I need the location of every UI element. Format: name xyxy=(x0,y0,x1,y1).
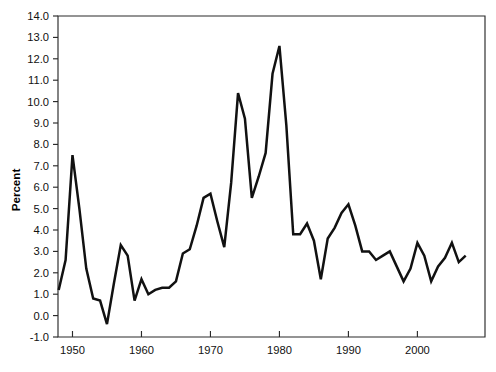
series-line-percent xyxy=(59,46,466,324)
y-tick-label: 1.0 xyxy=(33,288,49,300)
y-tick-label: 12.0 xyxy=(27,53,49,65)
x-tick-label: 1960 xyxy=(129,344,154,356)
plot-frame xyxy=(58,16,485,337)
y-tick-label: 0.0 xyxy=(33,310,49,322)
y-tick-label: 3.0 xyxy=(33,245,49,257)
y-tick-label: 5.0 xyxy=(33,203,49,215)
x-tick-label: 1990 xyxy=(336,344,361,356)
x-axis-tick-marks xyxy=(72,331,417,337)
y-axis-tick-marks xyxy=(53,16,58,337)
y-axis-tick-labels: -1.00.01.02.03.04.05.06.07.08.09.010.011… xyxy=(27,10,49,343)
axis-frame xyxy=(58,16,485,337)
y-tick-label: 7.0 xyxy=(33,160,49,172)
y-tick-label: 10.0 xyxy=(27,96,49,108)
y-tick-label: 8.0 xyxy=(33,138,49,150)
y-tick-label: 14.0 xyxy=(27,10,49,22)
chart-container: -1.00.01.02.03.04.05.06.07.08.09.010.011… xyxy=(0,0,496,372)
x-tick-label: 1950 xyxy=(60,344,85,356)
y-tick-label: 2.0 xyxy=(33,267,49,279)
x-axis-tick-labels: 195019601970198019902000 xyxy=(60,344,430,356)
y-tick-label: 4.0 xyxy=(33,224,49,236)
y-tick-label: 11.0 xyxy=(28,74,49,86)
y-tick-label: -1.0 xyxy=(30,331,49,343)
y-tick-label: 9.0 xyxy=(33,117,49,129)
y-tick-label: 6.0 xyxy=(33,181,49,193)
y-axis-title: Percent xyxy=(9,169,22,212)
x-tick-label: 1980 xyxy=(267,344,292,356)
x-tick-label: 2000 xyxy=(405,344,430,356)
y-tick-label: 13.0 xyxy=(27,31,49,43)
x-tick-label: 1970 xyxy=(198,344,223,356)
inflation-line-chart: -1.00.01.02.03.04.05.06.07.08.09.010.011… xyxy=(0,0,496,372)
data-series-group xyxy=(59,46,466,324)
